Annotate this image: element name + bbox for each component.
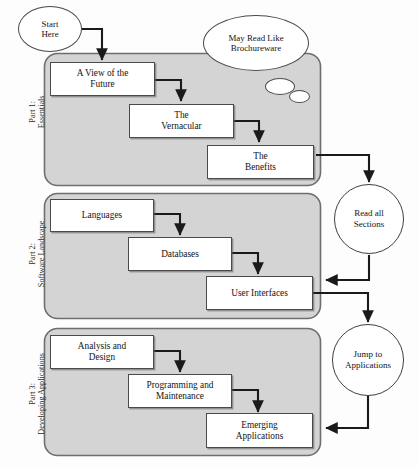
- callout-label: Start Here: [41, 19, 58, 40]
- node-emerging-applications[interactable]: Emerging Applications: [206, 413, 313, 448]
- connector-part1-to-readall: [316, 155, 369, 182]
- callout-may-read-like-brochureware[interactable]: May Read Like Brochureware: [203, 15, 309, 71]
- callout-label: Read all Sections: [354, 208, 385, 230]
- node-label: The Benefits: [245, 151, 276, 173]
- part-3-label: Part 3: Developing Applications: [29, 344, 47, 444]
- node-label: A View of the Future: [77, 68, 129, 90]
- connector-readall-to-part2: [326, 255, 369, 280]
- node-label: Languages: [82, 210, 122, 221]
- callout-label: May Read Like Brochureware: [228, 33, 283, 54]
- node-analysis-and-design[interactable]: Analysis and Design: [50, 335, 154, 369]
- node-programming-and-maintenance[interactable]: Programming and Maintenance: [128, 374, 232, 408]
- node-label: Programming and Maintenance: [147, 380, 214, 402]
- node-databases[interactable]: Databases: [128, 237, 232, 271]
- node-the-benefits[interactable]: The Benefits: [207, 145, 314, 179]
- part-2-label-line2: Software Landscape: [38, 213, 47, 295]
- diagram-canvas: Part 1: Essentials Part 2: Software Land…: [0, 0, 418, 466]
- node-user-interfaces[interactable]: User Interfaces: [206, 276, 313, 310]
- node-the-vernacular[interactable]: The Vernacular: [129, 104, 234, 138]
- node-label: Emerging Applications: [236, 420, 284, 442]
- thought-bubble-tail-small-icon: [289, 90, 310, 103]
- part-1-label: Part 1: Essentials: [29, 82, 47, 142]
- part-1-label-line2: Essentials: [38, 82, 47, 142]
- node-label: The Vernacular: [161, 110, 201, 132]
- node-label: Analysis and Design: [78, 341, 126, 363]
- callout-jump-to-applications[interactable]: Jump to Applications: [332, 324, 404, 396]
- node-label: Databases: [161, 249, 199, 260]
- part-3-label-line2: Developing Applications: [38, 344, 47, 444]
- callout-label: Jump to Applications: [345, 349, 391, 371]
- node-label: User Interfaces: [231, 288, 288, 299]
- connector-jump-to-part3: [326, 396, 368, 428]
- callout-read-all-sections[interactable]: Read all Sections: [334, 184, 404, 254]
- node-a-view-of-the-future[interactable]: A View of the Future: [50, 62, 155, 96]
- callout-start-here[interactable]: Start Here: [18, 6, 82, 52]
- node-languages[interactable]: Languages: [50, 199, 154, 232]
- part-2-label: Part 2: Software Landscape: [29, 213, 47, 295]
